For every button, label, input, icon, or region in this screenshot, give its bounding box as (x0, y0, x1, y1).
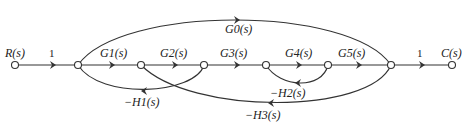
node-input (12, 62, 19, 69)
gain-label: −H3(s) (245, 108, 280, 122)
node (75, 62, 82, 69)
gain-label: 1 (49, 47, 55, 59)
gain-label: −H2(s) (270, 86, 305, 100)
gain-label: −H1(s) (124, 95, 159, 109)
signal-flow-graph: R(s) 1 G1(s) G2(s) G3(s) G4(s) G5(s) 1 C… (0, 0, 471, 127)
gain-label: G4(s) (285, 46, 312, 60)
gain-label: G3(s) (220, 46, 247, 60)
gain-label: G0(s) (225, 22, 252, 36)
node (201, 62, 208, 69)
node (138, 62, 145, 69)
gain-label: G1(s) (100, 46, 127, 60)
node (263, 62, 270, 69)
output-label: C(s) (441, 46, 462, 60)
node (388, 62, 395, 69)
arrow-icon (141, 87, 147, 95)
gain-label: 1 (417, 47, 423, 59)
edge-h3 (141, 65, 391, 103)
node-output (449, 62, 456, 69)
input-label: R(s) (4, 46, 25, 60)
gain-label: G5(s) (338, 46, 365, 60)
gain-label: G2(s) (160, 46, 187, 60)
node (325, 62, 332, 69)
